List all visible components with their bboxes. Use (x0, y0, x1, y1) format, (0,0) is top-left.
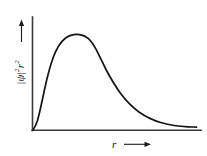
r-symbol: r (14, 64, 26, 68)
x-axis-arrow-icon (124, 142, 151, 147)
r-exponent: 2 (13, 60, 21, 64)
y-axis-arrow-icon (19, 20, 24, 43)
psi-exponent: 2 (13, 68, 21, 72)
plot-canvas (0, 0, 207, 156)
radial-probability-figure: |ψ|2r2 r (0, 0, 207, 156)
y-axis-label: |ψ|2r2 (12, 50, 28, 94)
psi-symbol: ψ (14, 74, 26, 81)
psi-bar-right: | (14, 72, 26, 74)
x-axis-label: r (112, 137, 116, 151)
probability-density-curve (33, 34, 197, 130)
y-axis-label-text: |ψ|2r2 (15, 60, 26, 84)
x-axis-label-text: r (112, 139, 116, 150)
